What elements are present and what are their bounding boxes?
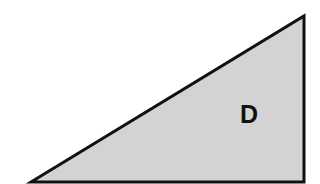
right-triangle [31,16,304,182]
diagram-canvas: D [0,0,320,184]
triangle-label: D [240,100,258,128]
